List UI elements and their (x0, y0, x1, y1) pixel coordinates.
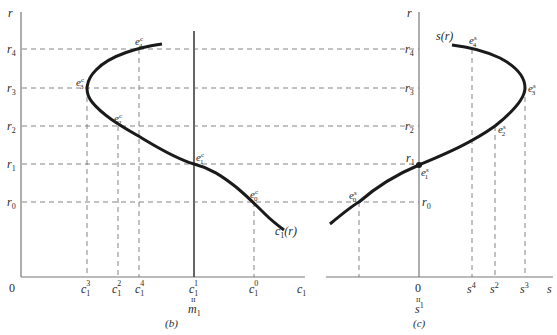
origin-label-right: 0 (415, 281, 421, 295)
panel-c: r r4 r3 r2 r1 r0 0 II s1 s4 s2 s3 s es4 … (326, 6, 553, 330)
r3-label-left: r3 (7, 81, 16, 97)
r-axis-label-left: r (8, 6, 13, 20)
m1-label: m1 (188, 302, 201, 318)
economics-diagram: r r4 r3 r2 r1 r0 0 c13 c12 c14 c11 II m1… (0, 0, 557, 335)
s2-label: s2 (490, 281, 499, 296)
c1r-curve-label: c1(r) (275, 224, 297, 240)
panel-b-caption: (b) (165, 317, 178, 330)
r1-label-right: r1 (406, 151, 415, 167)
e1s-label: es1 (421, 166, 429, 181)
sr-curve-label: s(r) (436, 29, 453, 43)
panel-b: r r4 r3 r2 r1 r0 0 c13 c12 c14 c11 II m1… (7, 6, 419, 330)
s1-label: s1 (415, 301, 424, 316)
e3c-label: ec3 (76, 76, 84, 91)
c12-label: c12 (112, 279, 121, 298)
e2c-label: ec2 (114, 112, 122, 127)
r-axis-label-right: r (407, 6, 412, 20)
c1-axis-label: c1 (297, 282, 306, 298)
s-curve (330, 45, 525, 224)
s-axis-label: s (547, 282, 552, 296)
r4-label-right: r4 (405, 42, 414, 58)
origin-label-left: 0 (9, 281, 15, 295)
panel-c-caption: (c) (413, 317, 426, 330)
r1-label-left: r1 (7, 157, 16, 173)
r0-label-left: r0 (7, 195, 16, 211)
r2-label-left: r2 (7, 119, 16, 135)
e3s-label: es3 (528, 82, 536, 97)
c10-label: c10 (249, 279, 258, 298)
s4-label: s4 (467, 281, 476, 296)
c13-label: c13 (81, 279, 90, 298)
r3-label-right: r3 (405, 81, 414, 97)
e2s-label: es2 (498, 123, 506, 138)
c14-label: c14 (135, 279, 144, 298)
r2-label-right: r2 (405, 119, 414, 135)
r4-label-left: r4 (7, 42, 16, 58)
s3-label: s3 (520, 281, 529, 296)
r0-label-right: r0 (422, 195, 431, 211)
